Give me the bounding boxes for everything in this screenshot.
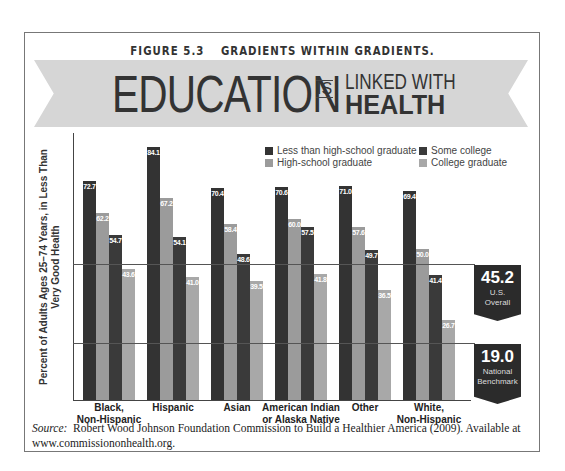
legend-swatch — [419, 159, 427, 167]
bar: 49.7 — [365, 250, 378, 400]
figure-caption: GRADIENTS WITHIN GRADIENTS. — [221, 44, 435, 58]
bar-value-label: 67.2 — [160, 200, 173, 207]
bar-value-label: 41.8 — [314, 276, 327, 283]
legend-item: Less than high-school graduate — [265, 145, 417, 156]
bar: 26.7 — [442, 320, 455, 400]
bar-value-label: 54.1 — [173, 239, 186, 246]
bar: 41.8 — [314, 274, 327, 400]
legend-item: High-school graduate — [265, 157, 372, 168]
bar-value-label: 57.5 — [301, 229, 314, 236]
bar: 71.0 — [339, 186, 352, 400]
bar-value-label: 39.5 — [250, 283, 263, 290]
reference-line — [73, 343, 475, 344]
legend-swatch — [265, 147, 273, 155]
bar-value-label: 26.7 — [442, 322, 455, 329]
bar-value-label: 41.0 — [186, 279, 199, 286]
bar: 69.4 — [403, 191, 416, 400]
source-label: Source: — [32, 422, 67, 434]
bar-value-label: 58.4 — [224, 226, 237, 233]
bar-value-label: 36.5 — [378, 292, 391, 299]
legend-swatch — [419, 147, 427, 155]
bar-value-label: 84.1 — [147, 149, 160, 156]
bar: 58.4 — [224, 224, 237, 400]
bar-value-label: 50.0 — [416, 251, 429, 258]
bar: 41.4 — [429, 275, 442, 400]
source-text: Robert Wood Johnson Foundation Commissio… — [32, 422, 521, 449]
bar: 60.0 — [288, 219, 301, 400]
bar: 54.7 — [109, 235, 122, 400]
headline-health: HEALTH — [345, 90, 445, 120]
bar-value-label: 62.2 — [96, 215, 109, 222]
national-benchmark-badge: 19.0 National Benchmark — [474, 344, 521, 404]
source-note: Source: Robert Wood Johnson Foundation C… — [32, 421, 532, 451]
bar-value-label: 54.7 — [109, 237, 122, 244]
legend-item: Some college — [419, 145, 492, 156]
bar-value-label: 41.4 — [429, 277, 442, 284]
bar: 70.4 — [211, 188, 224, 400]
figure-title: FIGURE 5.3 GRADIENTS WITHIN GRADIENTS. — [42, 44, 522, 58]
bar: 72.7 — [83, 181, 96, 400]
headline-education: EDUCATION — [112, 66, 341, 122]
headline: EDUCATION IS LINKED WITH HEALTH — [0, 64, 565, 124]
bar-value-label: 69.4 — [403, 193, 416, 200]
bar: 70.6 — [275, 187, 288, 400]
figure-number: FIGURE 5.3 — [130, 44, 204, 58]
bar: 84.1 — [147, 147, 160, 400]
bar: 62.2 — [96, 213, 109, 400]
bar-value-label: 43.6 — [122, 271, 135, 278]
bar-value-label: 72.7 — [83, 183, 96, 190]
us-overall-badge: 45.2 U.S. Overall — [474, 265, 521, 321]
bar: 57.6 — [352, 227, 365, 400]
bar-value-label: 49.7 — [365, 252, 378, 259]
bar-value-label: 70.6 — [275, 189, 288, 196]
bar: 54.1 — [173, 237, 186, 400]
bar: 57.5 — [301, 227, 314, 400]
bar: 41.0 — [186, 277, 199, 400]
bar: 48.6 — [237, 254, 250, 400]
bar-value-label: 60.0 — [288, 221, 301, 228]
headline-is: IS — [316, 80, 333, 98]
bar: 50.0 — [416, 249, 429, 400]
legend-item: College graduate — [419, 157, 507, 168]
bar: 67.2 — [160, 198, 173, 400]
bar-value-label: 48.6 — [237, 256, 250, 263]
legend-swatch — [265, 159, 273, 167]
bar: 36.5 — [378, 290, 391, 400]
y-axis-label: Percent of Adults Ages 25–74 Years, in L… — [38, 147, 62, 387]
bar-value-label: 71.0 — [339, 188, 352, 195]
bar-value-label: 57.6 — [352, 229, 365, 236]
bar: 39.5 — [250, 281, 263, 400]
bar: 43.6 — [122, 269, 135, 400]
bar-value-label: 70.4 — [211, 190, 224, 197]
reference-line — [73, 264, 475, 265]
